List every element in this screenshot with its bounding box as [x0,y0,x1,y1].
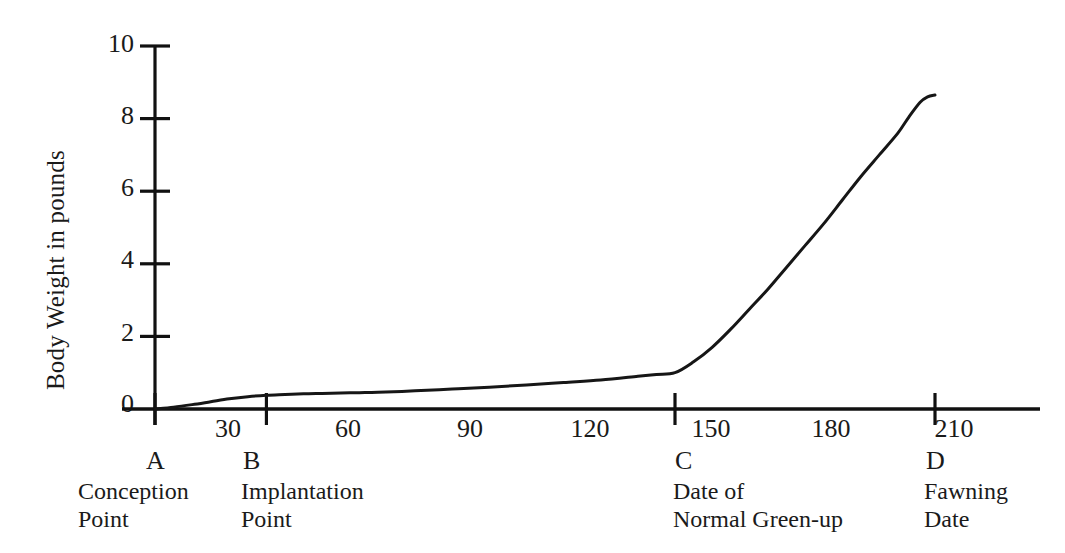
fetal-weight-curve [155,95,935,409]
chart-figure: Body Weight in pounds 10 8 6 4 2 0 30 60… [0,0,1065,553]
axis-lines [122,46,1040,425]
plot-canvas [0,0,1065,553]
